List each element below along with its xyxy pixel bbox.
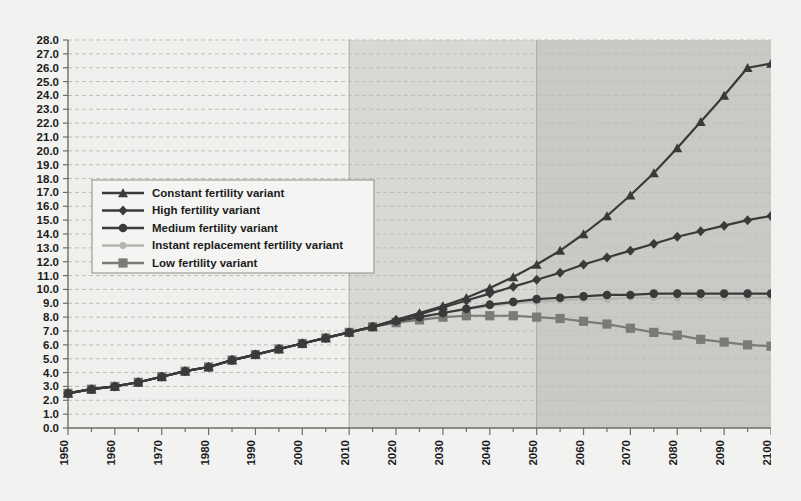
y-tick-label: 20.0 [37, 145, 59, 157]
chart-legend: Constant fertility variantHigh fertility… [92, 180, 374, 273]
y-tick-label: 0.0 [43, 422, 59, 434]
marker-circle [415, 313, 424, 322]
y-tick-label: 15.0 [37, 214, 59, 226]
marker-square [556, 314, 565, 323]
x-tick-label: 1970 [152, 440, 164, 466]
right-margin-mask [771, 0, 801, 501]
marker-square [649, 328, 658, 337]
y-tick-label: 1.0 [43, 408, 59, 420]
marker-circle [743, 289, 752, 298]
y-tick-label: 24.0 [37, 89, 59, 101]
marker-circle [181, 367, 190, 376]
marker-square [485, 311, 494, 320]
legend-item-label: High fertility variant [152, 204, 260, 216]
marker-square [696, 335, 705, 344]
y-tick-label: 13.0 [37, 242, 59, 254]
x-tick-label: 2090 [714, 440, 726, 466]
marker-circle [228, 356, 237, 365]
marker-square [743, 340, 752, 349]
marker-circle [134, 378, 143, 387]
y-tick-label: 18.0 [37, 173, 59, 185]
x-tick-label: 1950 [58, 440, 70, 466]
y-tick-label: 26.0 [37, 62, 59, 74]
marker-circle [603, 291, 612, 300]
x-tick-label: 2060 [574, 440, 586, 466]
marker-circle [119, 224, 128, 233]
x-tick-label: 2050 [527, 440, 539, 466]
legend-item-label: Constant fertility variant [152, 187, 284, 199]
marker-square [720, 337, 729, 346]
marker-square [602, 319, 611, 328]
x-tick-label: 1990 [245, 440, 257, 466]
marker-circle [345, 328, 354, 337]
y-tick-label: 14.0 [37, 228, 59, 240]
x-tick-label: 1980 [199, 440, 211, 466]
marker-circle [439, 309, 448, 318]
marker-circle [579, 292, 588, 301]
marker-circle [673, 289, 682, 298]
marker-circle [64, 389, 73, 398]
x-tick-label: 2080 [667, 440, 679, 466]
y-tick-label: 11.0 [37, 270, 59, 282]
y-tick-label: 7.0 [43, 325, 59, 337]
marker-circle [251, 350, 260, 359]
y-tick-label: 23.0 [37, 103, 59, 115]
y-tick-label: 5.0 [43, 353, 59, 365]
x-tick-label: 2020 [386, 440, 398, 466]
y-tick-label: 21.0 [37, 131, 59, 143]
y-tick-label: 17.0 [37, 186, 59, 198]
marker-circle [298, 339, 307, 348]
marker-square [673, 331, 682, 340]
y-tick-label: 10.0 [37, 283, 59, 295]
y-tick-label: 25.0 [37, 76, 59, 88]
legend-item-label: Low fertility variant [152, 257, 258, 269]
y-tick-label: 2.0 [43, 394, 59, 406]
marker-square [509, 311, 518, 320]
y-tick-label: 3.0 [43, 380, 59, 392]
marker-circle-small [120, 242, 127, 249]
y-tick-label: 22.0 [37, 117, 59, 129]
marker-square [118, 258, 127, 267]
x-tick-label: 2030 [433, 440, 445, 466]
x-tick-label: 2070 [620, 440, 632, 466]
y-tick-label: 8.0 [43, 311, 59, 323]
legend-item-label: Medium fertility variant [152, 222, 278, 234]
y-tick-label: 28.0 [37, 34, 59, 46]
marker-circle [275, 345, 284, 354]
marker-circle [204, 363, 213, 372]
marker-circle [462, 305, 471, 314]
y-tick-label: 6.0 [43, 339, 59, 351]
marker-circle [650, 289, 659, 298]
marker-circle [720, 289, 729, 298]
marker-circle [626, 291, 635, 300]
marker-circle [696, 289, 705, 298]
marker-circle [111, 382, 120, 391]
legend-item-label: Instant replacement fertility variant [152, 239, 343, 251]
x-tick-label: 2000 [292, 440, 304, 466]
marker-circle [157, 372, 166, 381]
marker-circle [368, 323, 377, 332]
x-tick-label: 2040 [480, 440, 492, 466]
y-tick-label: 27.0 [37, 48, 59, 60]
marker-circle [392, 317, 401, 326]
marker-square [579, 317, 588, 326]
x-tick-label: 1960 [105, 440, 117, 466]
marker-circle [87, 385, 96, 394]
marker-square [626, 324, 635, 333]
marker-square [532, 313, 541, 322]
y-tick-label: 4.0 [43, 367, 59, 379]
marker-circle [532, 295, 541, 304]
x-tick-label: 2010 [339, 440, 351, 466]
marker-circle [509, 298, 518, 307]
population-projection-chart: 0.01.02.03.04.05.06.07.08.09.010.011.012… [0, 0, 801, 501]
marker-circle [486, 300, 495, 309]
y-tick-label: 12.0 [37, 256, 59, 268]
y-tick-label: 9.0 [43, 297, 59, 309]
marker-circle [321, 334, 330, 343]
y-tick-label: 19.0 [37, 159, 59, 171]
chart-canvas: 0.01.02.03.04.05.06.07.08.09.010.011.012… [0, 0, 801, 501]
marker-circle [556, 293, 565, 302]
y-tick-label: 16.0 [37, 200, 59, 212]
